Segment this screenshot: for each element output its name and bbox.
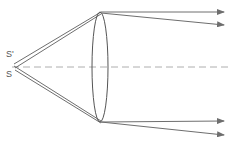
refracted-rays: [101, 12, 224, 135]
source-label-lower: S: [6, 70, 12, 79]
source-label-upper: S': [6, 50, 14, 59]
ray-diagram: [0, 0, 231, 143]
incident-rays: [14, 12, 101, 123]
